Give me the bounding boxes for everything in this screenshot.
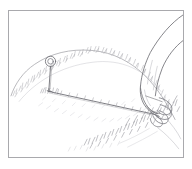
grassy-mound: [11, 50, 175, 119]
hand-shading: [144, 60, 166, 119]
forearm-upper-edge: [140, 15, 183, 86]
forearm-lower-edge: [155, 41, 183, 96]
taut-line: [49, 91, 154, 115]
far-contour: [19, 62, 161, 102]
illustration-border: [8, 10, 184, 158]
ridge-grass-texture: [13, 47, 172, 113]
taut-line-main: [49, 91, 154, 114]
hand-gripping-line: [140, 15, 183, 127]
stake-ring-outer: [45, 56, 55, 66]
screenshot-root: Hand pulling a taut line from a ring-top…: [0, 0, 192, 169]
little-finger: [150, 117, 162, 127]
sketch-illustration: [9, 11, 183, 157]
knuckle-line: [145, 96, 162, 102]
ring-finger: [153, 111, 168, 124]
stake-ring-inner: [48, 59, 54, 65]
right-slope-contour: [157, 118, 181, 150]
